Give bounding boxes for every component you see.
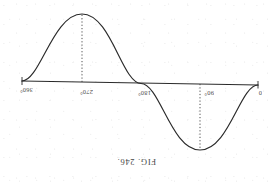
axis-tick-label-0: 0	[259, 90, 262, 97]
rotated-scanned-plate: 0 90° 180° 270° 360° FIG. 246.	[0, 0, 273, 185]
axis-tick-label-270: 270°	[80, 89, 93, 96]
axis-tick-label-360: 360°	[20, 87, 33, 94]
figure-caption: FIG. 246.	[0, 157, 273, 167]
figure-container: 0 90° 180° 270° 360° FIG. 246.	[0, 0, 273, 185]
axis-tick-label-180: 180°	[138, 90, 151, 97]
axis-tick-label-90: 90°	[204, 90, 214, 97]
